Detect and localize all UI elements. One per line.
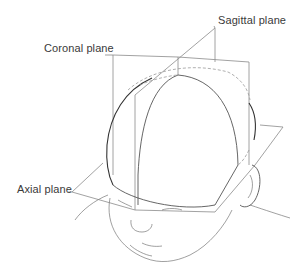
axial-section-curve (113, 165, 238, 207)
axial-plane-back-edge (255, 125, 283, 165)
right-eye-brow (162, 209, 182, 211)
head-outline (107, 68, 256, 207)
axial-plane-front-edge (72, 192, 215, 212)
left-shoulder-line (75, 195, 108, 220)
skull-right-contour (249, 103, 255, 140)
coronal-plane-label: Coronal plane (44, 42, 114, 54)
hidden-back-contour (238, 150, 249, 165)
skull-top-hidden-contour (128, 68, 250, 100)
mouth (142, 243, 162, 246)
right-shoulder-line (250, 205, 290, 218)
skull-left-contour (107, 78, 152, 185)
axial-plane-left-edge (72, 163, 103, 192)
axial-plane (72, 125, 283, 212)
coronal-section-curve (178, 75, 238, 165)
nose (131, 220, 152, 232)
skull-hidden-arc (140, 75, 178, 85)
anatomical-planes-diagram: Sagittal plane Coronal plane Axial plane (0, 0, 305, 277)
ear-inner (248, 175, 252, 198)
coronal-plane (113, 55, 249, 175)
axial-plane-right-edge (215, 165, 255, 212)
sagittal-leader-line (214, 26, 215, 28)
body-lines (75, 195, 290, 220)
sagittal-plane-label: Sagittal plane (218, 14, 286, 26)
sagittal-section-curve (138, 75, 178, 205)
axial-plane-label: Axial plane (17, 183, 72, 195)
chin-shadow (130, 245, 152, 256)
sagittal-plane (135, 28, 215, 210)
sagittal-plane-top-edge (135, 28, 215, 95)
